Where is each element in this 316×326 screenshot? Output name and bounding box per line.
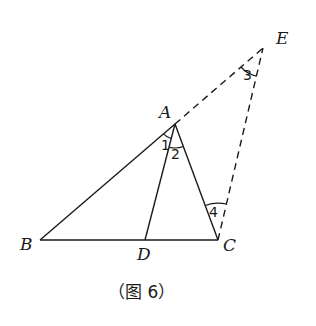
angle-label-1: 1 (161, 137, 170, 153)
label-B: B (19, 234, 33, 254)
segment-CE-dashed (218, 48, 263, 240)
geometry-figure: A B C D E 1 2 3 4 （图 6） (0, 0, 316, 326)
label-E: E (275, 28, 289, 48)
label-C: C (223, 235, 236, 255)
segment-AB (40, 124, 175, 240)
segment-AD (145, 124, 175, 240)
angle-label-2: 2 (171, 146, 180, 162)
label-D: D (136, 244, 151, 264)
figure-caption: （图 6） (108, 282, 175, 302)
label-A: A (157, 102, 171, 122)
segment-AC (175, 124, 218, 240)
segment-AE-dashed (175, 48, 263, 124)
angle-label-4: 4 (209, 204, 218, 220)
angle-label-3: 3 (243, 67, 252, 83)
